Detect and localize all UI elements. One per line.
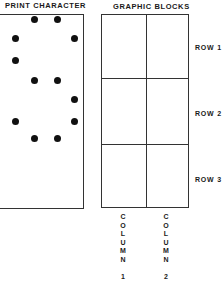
row-label-3: ROW 3 <box>195 176 222 183</box>
column-divider <box>146 15 147 207</box>
column-label-letter: U <box>161 239 171 248</box>
print-dot <box>71 96 78 103</box>
print-dot <box>31 77 38 84</box>
print-dot <box>54 16 61 23</box>
column-label-2: C O L U M N 2 <box>161 213 171 282</box>
graphic-blocks-title: GRAPHIC BLOCKS <box>113 2 190 11</box>
row-label-1: ROW 1 <box>195 44 222 51</box>
column-label-letter: M <box>118 247 128 256</box>
column-label-letter: M <box>161 247 171 256</box>
print-dot <box>12 35 19 42</box>
print-character-box <box>0 14 84 209</box>
column-label-letter: C <box>161 213 171 222</box>
column-label-letter: U <box>118 239 128 248</box>
print-dot <box>54 77 61 84</box>
row-label-2: ROW 2 <box>195 110 222 117</box>
column-label-number: 2 <box>161 273 171 282</box>
column-label-letter: L <box>118 230 128 239</box>
print-dot <box>31 16 38 23</box>
column-label-letter: N <box>118 256 128 265</box>
print-dot <box>71 118 78 125</box>
column-label-number: 1 <box>118 273 128 282</box>
column-label-letter: O <box>161 222 171 231</box>
row-divider-1 <box>102 78 188 79</box>
print-dot <box>12 57 19 64</box>
print-dot <box>71 35 78 42</box>
print-dot <box>54 135 61 142</box>
column-label-letter: N <box>161 256 171 265</box>
print-character-title: PRINT CHARACTER <box>5 1 86 10</box>
column-label-letter: L <box>161 230 171 239</box>
print-dot <box>12 118 19 125</box>
row-divider-2 <box>102 144 188 145</box>
graphic-blocks-grid <box>101 14 189 208</box>
column-label-1: C O L U M N 1 <box>118 213 128 282</box>
column-label-letter: O <box>118 222 128 231</box>
print-dot <box>31 135 38 142</box>
column-label-letter: C <box>118 213 128 222</box>
